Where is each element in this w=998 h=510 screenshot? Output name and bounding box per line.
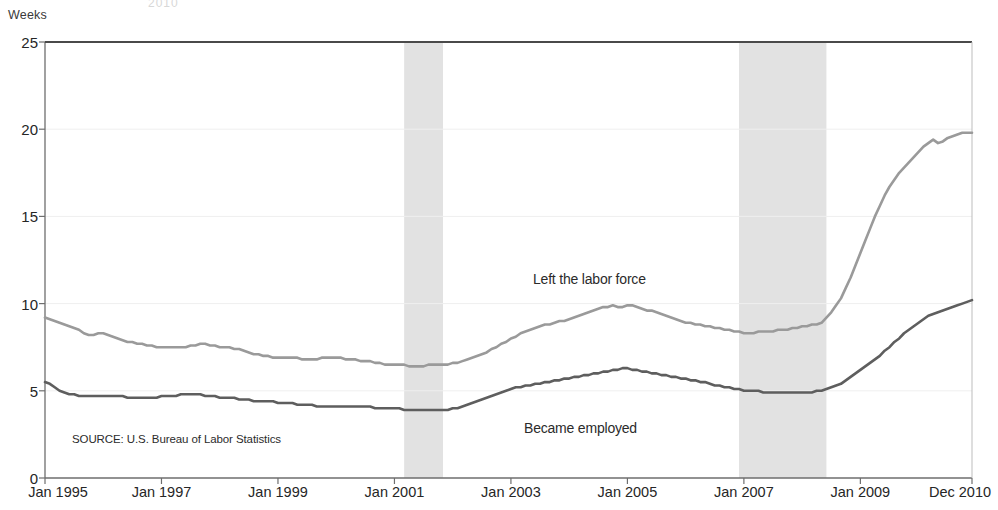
- annotation-left-the-labor-force: Left the labor force: [533, 271, 646, 287]
- x-tick-label: Jan 2007: [714, 484, 774, 500]
- chart-figure: 2010 Weeks 0510152025 Jan 1995Jan 1997Ja…: [0, 0, 998, 510]
- x-tick-label: Jan 2001: [365, 484, 425, 500]
- gridlines: [45, 42, 972, 391]
- y-axis-tick-labels: 0510152025: [0, 0, 38, 510]
- x-tick-label: Jan 1995: [28, 484, 88, 500]
- x-tick-label: Jan 2005: [598, 484, 658, 500]
- annotation-became-employed: Became employed: [524, 420, 637, 436]
- y-tick-label: 15: [8, 208, 38, 225]
- x-tick-label: Dec 2010: [929, 484, 991, 500]
- x-tick-label: Jan 2003: [481, 484, 541, 500]
- axis-ticks: [39, 42, 972, 484]
- y-tick-label: 20: [8, 121, 38, 138]
- x-tick-label: Jan 1997: [132, 484, 192, 500]
- y-tick-label: 25: [8, 34, 38, 51]
- source-note: SOURCE: U.S. Bureau of Labor Statistics: [72, 433, 281, 445]
- y-tick-label: 10: [8, 295, 38, 312]
- recession-bands: [404, 42, 826, 478]
- y-tick-label: 5: [8, 382, 38, 399]
- x-tick-label: Jan 1999: [248, 484, 308, 500]
- x-tick-label: Jan 2009: [831, 484, 891, 500]
- data-series: [45, 133, 972, 410]
- axis-frame: [45, 42, 972, 478]
